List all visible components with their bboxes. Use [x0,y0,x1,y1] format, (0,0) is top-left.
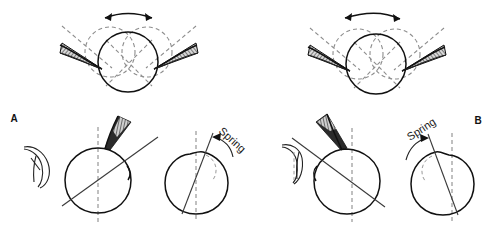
diagram-svg: A B [0,0,499,233]
figure-canvas: A B [0,0,499,233]
panel-label-a: A [10,113,17,124]
panel-label-b: B [474,115,481,126]
background [0,0,499,233]
